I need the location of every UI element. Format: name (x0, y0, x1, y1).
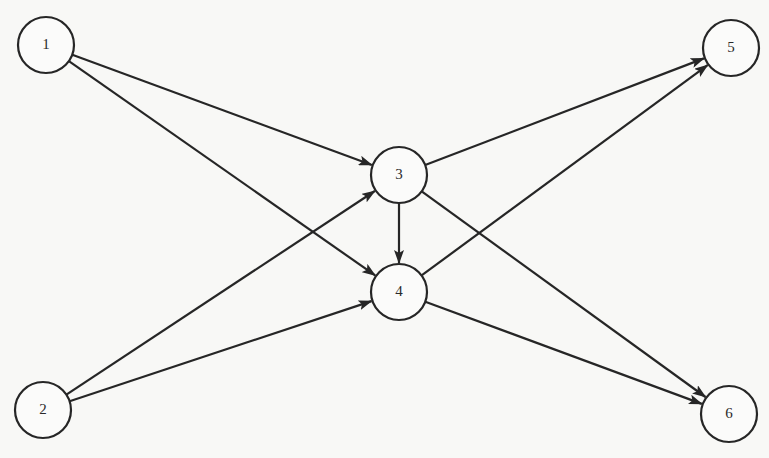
edge-1-to-3-arrow (72, 55, 372, 165)
graph-canvas (0, 0, 769, 458)
network-diagram: 1 2 3 4 5 6 (0, 0, 769, 458)
node-1-label: 1 (26, 34, 66, 54)
edge-2-to-4-arrow (70, 301, 372, 401)
edge-2-to-3-arrow (66, 191, 374, 395)
edge-3-to-6-arrow (422, 191, 706, 397)
edge-4-to-5-arrow (422, 65, 708, 275)
node-5-label: 5 (711, 37, 751, 57)
edge-1-to-4-arrow (69, 61, 375, 275)
edge-4-to-6-arrow (425, 302, 702, 404)
edges-layer (66, 55, 707, 404)
edge-3-to-5-arrow (425, 58, 704, 165)
node-2-label: 2 (23, 399, 63, 419)
node-3-label: 3 (379, 164, 419, 184)
node-6-label: 6 (709, 403, 749, 423)
node-4-label: 4 (379, 281, 419, 301)
